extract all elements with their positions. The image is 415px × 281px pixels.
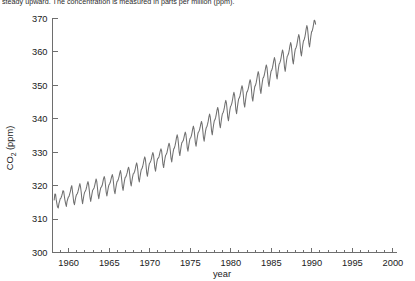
y-axis-ticks <box>53 19 58 253</box>
x-tick-label: 2000 <box>383 258 404 268</box>
y-tick-label: 350 <box>32 81 48 91</box>
y-tick-label: 360 <box>32 47 48 57</box>
svg-text:CO2 (ppm): CO2 (ppm) <box>5 126 17 171</box>
x-tick-label: 1960 <box>58 258 79 268</box>
y-axis-tick-labels: 300310320330340350360370 <box>32 14 48 258</box>
x-tick-label: 1965 <box>99 258 120 268</box>
y-axis-title: CO2 (ppm) <box>5 126 17 171</box>
x-tick-label: 1995 <box>342 258 363 268</box>
chart-canvas: 300310320330340350360370 196019651970197… <box>0 0 415 281</box>
y-axis-title-main: CO <box>5 156 15 170</box>
x-tick-label: 1985 <box>261 258 282 268</box>
y-tick-label: 310 <box>32 214 48 224</box>
co2-data-line <box>54 20 315 208</box>
x-tick-label: 1970 <box>139 258 160 268</box>
y-tick-label: 320 <box>32 181 48 191</box>
y-axis-title-unit: (ppm) <box>5 126 15 153</box>
co2-keeling-curve-figure: 300310320330340350360370 196019651970197… <box>0 0 415 281</box>
x-tick-label: 1975 <box>180 258 201 268</box>
x-axis-title: year <box>213 269 231 279</box>
y-tick-label: 300 <box>32 248 48 258</box>
y-tick-label: 370 <box>32 14 48 24</box>
y-tick-label: 330 <box>32 148 48 158</box>
x-axis-ticks <box>53 248 393 253</box>
x-tick-label: 1990 <box>302 258 323 268</box>
y-tick-label: 340 <box>32 114 48 124</box>
x-tick-label: 1980 <box>220 258 241 268</box>
x-axis-tick-labels: 196019651970197519801985199019952000 <box>58 258 403 268</box>
